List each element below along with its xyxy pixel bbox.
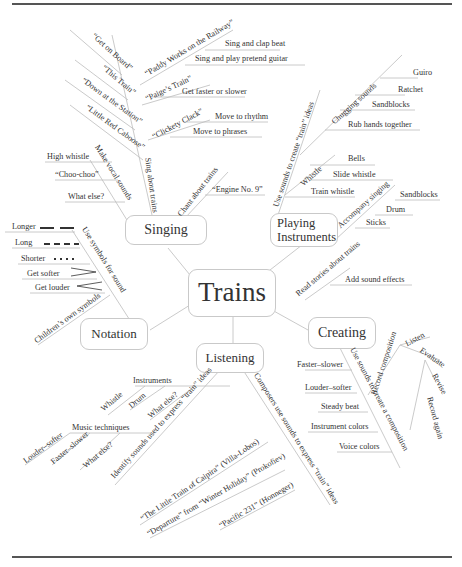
label-vocal-what-else: What else?	[68, 193, 104, 201]
crescendo-icon	[75, 281, 103, 291]
label-vocal-high-whistle: High whistle	[47, 153, 89, 161]
label-voice-colors: Voice colors	[339, 443, 380, 451]
label-sandblocks-acc: Sandblocks	[400, 191, 438, 199]
label-train-whistle: Train whistle	[311, 188, 354, 196]
playing-label-line2: Instruments	[277, 230, 336, 244]
node-playing-instruments[interactable]: Playing Instruments	[270, 213, 338, 247]
label-bells: Bells	[348, 155, 365, 163]
label-symbol-longer: Longer	[12, 223, 36, 231]
label-louder-softer-create: Louder–softer	[305, 384, 351, 392]
label-symbol-long: Long	[15, 239, 32, 247]
listening-label: Listening	[205, 351, 254, 366]
label-paddy-guitar: Sing and play pretend guitar	[195, 55, 288, 63]
label-vocal-choo-choo: “Choo-choo”	[55, 171, 99, 179]
label-instrument-colors: Instrument colors	[311, 423, 369, 431]
creating-label: Creating	[318, 325, 366, 341]
label-symbol-shorter: Shorter	[21, 255, 45, 263]
notation-label: Notation	[91, 327, 137, 342]
label-rub-hands: Rub hands together	[348, 121, 412, 129]
label-steady-beat: Steady beat	[321, 403, 359, 411]
label-clickety-rhythm: Move to rhythm	[215, 113, 268, 121]
label-engine-no-9: “Engine No. 9”	[212, 186, 263, 194]
label-drum-acc: Drum	[386, 206, 405, 214]
shorter-symbol-icon	[54, 258, 76, 260]
label-guiro: Guiro	[413, 69, 432, 77]
label-symbol-get-softer: Get softer	[27, 270, 60, 278]
central-node-trains[interactable]: Trains	[188, 269, 276, 317]
label-sandblocks-chug: Sandblocks	[372, 101, 410, 109]
label-sticks: Sticks	[366, 219, 386, 227]
singing-label: Singing	[144, 222, 188, 238]
label-symbol-get-louder: Get louder	[35, 284, 70, 292]
label-instruments: Instruments	[133, 377, 172, 385]
node-singing[interactable]: Singing	[125, 215, 207, 245]
label-paddy-clap: Sing and clap beat	[225, 40, 285, 48]
label-slide-whistle: Slide whistle	[333, 171, 376, 179]
long-symbol-icon	[44, 243, 79, 245]
longer-symbol-icon	[40, 227, 54, 229]
label-add-sound-effects: Add sound effects	[345, 276, 404, 284]
node-notation[interactable]: Notation	[80, 318, 148, 350]
label-paige-faster: Get faster or slower	[182, 88, 247, 96]
playing-label-line1: Playing	[277, 216, 315, 230]
central-label: Trains	[198, 277, 266, 308]
label-ratchet: Ratchet	[398, 86, 423, 94]
label-clickety-phrases: Move to phrases	[193, 128, 247, 136]
longer-symbol-icon-2	[60, 227, 74, 229]
node-creating[interactable]: Creating	[308, 317, 376, 349]
decrescendo-icon	[70, 267, 98, 277]
label-faster-slower-create: Faster–slower	[297, 361, 343, 369]
